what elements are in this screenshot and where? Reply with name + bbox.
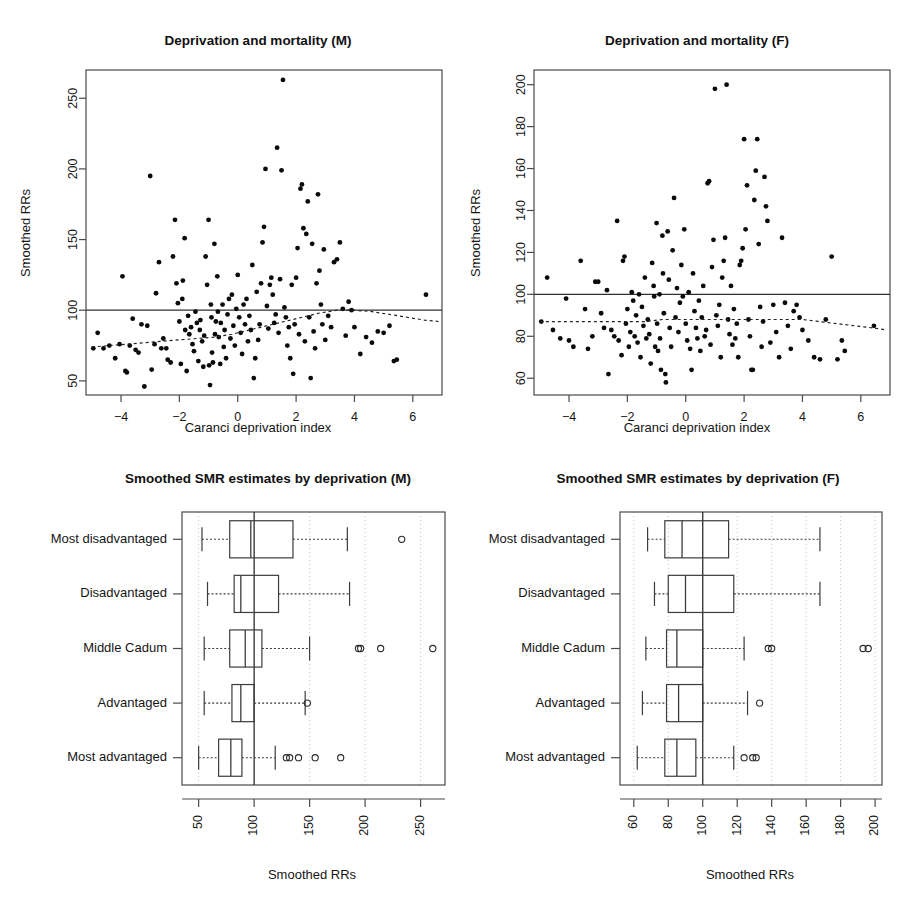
scatter-point: [756, 242, 761, 247]
scatter-point: [599, 311, 604, 316]
y-tick-label: 150: [66, 229, 80, 250]
outlier-point: [295, 755, 301, 761]
y-tick-label: 200: [66, 158, 80, 179]
scatter-point: [736, 355, 741, 360]
scatter-point: [605, 288, 610, 293]
box-iqr: [668, 575, 734, 612]
scatter-point: [145, 323, 150, 328]
scatter-point: [658, 336, 663, 341]
scatter-point: [161, 336, 166, 341]
plot-frame: [86, 70, 442, 395]
scatter-point: [213, 319, 218, 324]
scatter-point: [205, 282, 210, 287]
scatter-point: [291, 371, 296, 376]
scatter-point: [297, 332, 302, 337]
scatter-point: [278, 277, 283, 282]
scatter-point: [686, 290, 691, 295]
scatter-point: [667, 326, 672, 331]
category-label: Middle Cadum: [83, 640, 167, 655]
scatter-point: [739, 258, 744, 263]
scatter-point: [615, 219, 620, 224]
y-tick-label: 100: [514, 284, 528, 305]
scatter-point: [655, 321, 660, 326]
scatter-point: [622, 254, 627, 259]
scatter-point: [113, 356, 118, 361]
scatter-point: [174, 281, 179, 286]
scatter-point: [176, 301, 181, 306]
x-tick-label: 150: [302, 815, 316, 836]
scatter-point: [337, 240, 342, 245]
scatter-point: [266, 326, 271, 331]
scatter-point: [621, 258, 626, 263]
scatter-point: [244, 297, 249, 302]
scatter-point: [237, 315, 242, 320]
scatter-point: [183, 328, 188, 333]
scatter-point: [184, 369, 189, 374]
scatter-point: [232, 343, 237, 348]
x-tick-label: 160: [798, 815, 812, 836]
scatter-point: [669, 344, 674, 349]
scatter-point: [629, 290, 634, 295]
x-tick-label: 140: [764, 815, 778, 836]
box-iqr: [665, 521, 729, 558]
x-tick-label: 200: [867, 815, 881, 836]
x-tick-label: 120: [730, 815, 744, 836]
scatter-point: [211, 360, 216, 365]
scatter-point: [644, 336, 649, 341]
scatter-point: [720, 275, 725, 280]
scatter-point: [154, 291, 159, 296]
scatter-point: [583, 307, 588, 312]
boxplot-female-title: Smoothed SMR estimates by deprivation (F…: [557, 471, 840, 486]
category-label: Most disadvantaged: [51, 531, 167, 546]
scatter-point: [192, 349, 197, 354]
scatter-point: [319, 302, 324, 307]
scatter-point: [206, 217, 211, 222]
category-label: Most advantaged: [505, 749, 605, 764]
scatter-point: [246, 339, 251, 344]
scatter-point: [247, 313, 252, 318]
scatter-point: [642, 275, 647, 280]
scatter-female-ylabel: Smoothed RRs: [468, 188, 483, 277]
scatter-point: [320, 322, 325, 327]
scatter-point: [606, 372, 611, 377]
scatter-point: [275, 145, 280, 150]
scatter-point: [829, 254, 834, 259]
scatter-point: [352, 325, 357, 330]
y-tick-label: 120: [514, 242, 528, 263]
scatter-point: [774, 330, 779, 335]
scatter-point: [196, 359, 201, 364]
scatter-point: [654, 221, 659, 226]
scatter-point: [136, 350, 141, 355]
scatter-point: [626, 344, 631, 349]
scatter-point: [187, 332, 192, 337]
scatter-point: [750, 367, 755, 372]
scatter-point: [317, 268, 322, 273]
scatter-point: [302, 339, 307, 344]
scatter-point: [101, 346, 106, 351]
scatter-point: [683, 321, 688, 326]
scatter-point: [313, 346, 318, 351]
scatter-point: [818, 357, 823, 362]
panel-boxplot-male: Smoothed SMR estimates by deprivation (M…: [0, 455, 452, 898]
scatter-point: [656, 349, 661, 354]
scatter-point: [752, 198, 757, 203]
x-tick-label: 6: [409, 410, 416, 424]
scatter-point: [370, 340, 375, 345]
scatter-point: [688, 346, 693, 351]
scatter-point: [695, 336, 700, 341]
scatter-point: [316, 192, 321, 197]
box-iqr: [665, 739, 696, 776]
scatter-point: [212, 241, 217, 246]
scatter-point: [791, 309, 796, 314]
scatter-point: [281, 77, 286, 82]
scatter-point: [692, 309, 697, 314]
scatter-point: [748, 334, 753, 339]
scatter-point: [304, 232, 309, 237]
outlier-point: [430, 645, 436, 651]
x-tick-label: 2: [293, 410, 300, 424]
scatter-point: [269, 275, 274, 280]
scatter-point: [310, 241, 315, 246]
scatter-point: [292, 322, 297, 327]
x-tick-label: 0: [234, 410, 241, 424]
scatter-point: [117, 342, 122, 347]
